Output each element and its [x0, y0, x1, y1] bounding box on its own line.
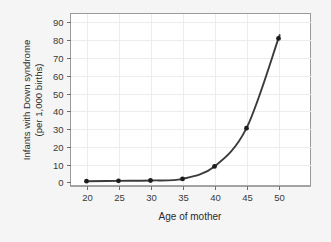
data-point-marker — [148, 178, 153, 183]
data-point-marker — [212, 164, 217, 169]
y-tick-label: 0 — [58, 177, 63, 188]
x-tick-label: 50 — [274, 192, 285, 203]
y-tick-label: 50 — [53, 89, 64, 100]
x-tick-label: 20 — [82, 192, 93, 203]
y-tick-label: 80 — [53, 35, 64, 46]
y-tick-label: 30 — [53, 124, 64, 135]
x-tick-label: 25 — [114, 192, 125, 203]
data-point-marker — [276, 36, 281, 41]
y-axis-title-line-2: (per 1,000 births) — [33, 63, 44, 136]
y-axis-title-line-1: Infants with Down syndrome — [21, 40, 32, 161]
data-point-marker — [84, 179, 89, 184]
y-tick-label: 60 — [53, 71, 64, 82]
plot-frame — [71, 14, 311, 187]
y-tick-label: 40 — [53, 106, 64, 117]
x-tick-label: 40 — [210, 192, 221, 203]
y-tick-label: 20 — [53, 142, 64, 153]
data-point-marker — [244, 126, 249, 131]
down-syndrome-incidence-chart: 0102030405060708090 20253035404550 Age o… — [0, 0, 331, 242]
y-tick-label: 70 — [53, 53, 64, 64]
chart-figure: 0102030405060708090 20253035404550 Age o… — [0, 0, 331, 242]
y-tick-label: 10 — [53, 160, 64, 171]
x-tick-label: 35 — [178, 192, 189, 203]
data-point-marker — [180, 176, 185, 181]
x-axis-title: Age of mother — [159, 211, 222, 222]
data-point-marker — [116, 178, 121, 183]
x-tick-label: 30 — [146, 192, 157, 203]
x-tick-label: 45 — [242, 192, 253, 203]
y-tick-label: 90 — [53, 17, 64, 28]
